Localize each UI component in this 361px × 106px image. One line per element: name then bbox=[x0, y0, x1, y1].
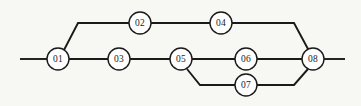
node-03-label: 03 bbox=[114, 54, 124, 64]
node-06[interactable]: 06 bbox=[235, 48, 257, 70]
node-02[interactable]: 02 bbox=[129, 12, 151, 34]
edge-04-to-08 bbox=[232, 23, 308, 49]
network-diagram-canvas: 01 02 03 04 05 06 bbox=[0, 0, 361, 106]
node-08[interactable]: 08 bbox=[302, 48, 324, 70]
node-04-label: 04 bbox=[216, 18, 226, 28]
node-04[interactable]: 04 bbox=[210, 12, 232, 34]
network-diagram: 01 02 03 04 05 06 bbox=[0, 0, 361, 106]
node-layer: 01 02 03 04 05 06 bbox=[47, 12, 324, 96]
node-05[interactable]: 05 bbox=[170, 48, 192, 70]
edge-01-to-02 bbox=[64, 23, 129, 50]
node-05-label: 05 bbox=[176, 54, 186, 64]
node-03[interactable]: 03 bbox=[108, 48, 130, 70]
node-07[interactable]: 07 bbox=[235, 74, 257, 96]
edge-07-to-08 bbox=[257, 69, 308, 85]
node-08-label: 08 bbox=[308, 54, 318, 64]
node-02-label: 02 bbox=[135, 18, 145, 28]
node-01-label: 01 bbox=[53, 54, 63, 64]
node-06-label: 06 bbox=[241, 54, 251, 64]
node-01[interactable]: 01 bbox=[47, 48, 69, 70]
node-07-label: 07 bbox=[241, 80, 251, 90]
edge-05-to-07 bbox=[187, 69, 235, 85]
